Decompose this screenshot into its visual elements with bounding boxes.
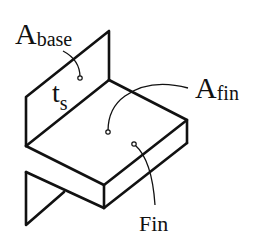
fin-label: Fin (139, 211, 168, 236)
fin-diagram: Abase ts Afin Fin (0, 0, 257, 243)
fin-point (132, 142, 136, 146)
ts-label: ts (52, 77, 68, 114)
a-base-point (78, 76, 82, 80)
a-fin-label: Afin (195, 71, 239, 104)
leader-a-fin (108, 84, 188, 131)
fin-bottom-left-edge (26, 172, 104, 208)
a-base-label: Abase (15, 17, 72, 50)
a-fin-point (106, 130, 110, 134)
